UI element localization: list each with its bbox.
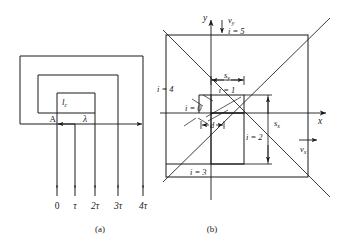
tick-label-2: 2τ [91, 201, 100, 211]
index-label-i5: i = 5 [228, 26, 245, 36]
diagonal-rising [163, 18, 330, 182]
axis-label-y: y [202, 13, 208, 23]
tick-label-1: τ [73, 201, 77, 211]
panel-a: A lc λ 0 τ 2τ 3τ 4τ (a) [20, 56, 148, 234]
panel-a-tick-marks [57, 185, 143, 196]
axis-label-x: x [317, 116, 323, 126]
index-label-i0: i = 0 [185, 103, 202, 113]
tick-label-4: 4τ [139, 201, 148, 211]
caption-b: (b) [207, 224, 218, 234]
label-A: A [50, 114, 57, 124]
sx-dimension [244, 95, 272, 164]
panel-b: x y vy vx [157, 13, 330, 234]
label-lc: lc [62, 97, 68, 108]
index-label-i2: i = 2 [246, 132, 263, 142]
label-lc-sub: c [65, 102, 68, 108]
index-label-i4: i = 4 [157, 84, 174, 94]
label-vx-sub: x [303, 149, 307, 155]
figure-root: A lc λ 0 τ 2τ 3τ 4τ (a) x [0, 0, 339, 243]
tick-label-3: 3τ [113, 201, 123, 211]
label-sy: sy [224, 70, 230, 81]
label-sx: sx [274, 118, 280, 129]
tick-label-0: 0 [55, 201, 60, 211]
spiral-turn-inner [57, 93, 95, 188]
panel-a-tick-labels: 0 τ 2τ 3τ 4τ [55, 201, 148, 211]
label-sy-sub: y [226, 75, 230, 81]
label-sx-sub: x [276, 123, 280, 129]
caption-a: (a) [95, 224, 105, 234]
label-vx: vx [300, 144, 307, 155]
index-labels: i = 5 i = 4 i = 0 i = 1 i = 2 i = 3 [157, 26, 263, 177]
label-d: d [210, 120, 215, 130]
spiral-turn-middle [38, 75, 118, 188]
label-lambda: λ [82, 114, 87, 124]
spiral-conductor [20, 56, 143, 188]
cell-i2 [211, 113, 244, 164]
index-label-i1: i = 1 [219, 85, 236, 95]
index-label-i3: i = 3 [190, 167, 207, 177]
diagonal-falling [163, 30, 330, 197]
label-vy: vy [228, 15, 235, 26]
inner-cells [166, 95, 244, 164]
